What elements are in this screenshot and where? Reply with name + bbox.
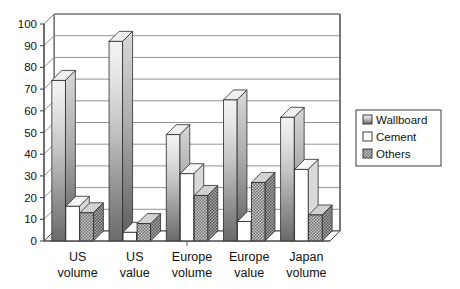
legend: WallboardCementOthers xyxy=(356,110,441,166)
legend-label: Wallboard xyxy=(376,114,427,126)
bar-side-face xyxy=(265,172,275,241)
y-tick-label: 90 xyxy=(24,40,37,52)
bar-front-face xyxy=(66,206,80,241)
y-tick-label: 80 xyxy=(24,61,37,73)
x-axis-category-label: Europe xyxy=(172,250,212,264)
legend-label: Others xyxy=(376,148,411,160)
x-axis-category-label: value xyxy=(120,266,150,280)
bar xyxy=(109,31,133,241)
y-tick-label: 70 xyxy=(24,83,37,95)
y-tick-label: 40 xyxy=(24,148,37,160)
y-tick-label: 0 xyxy=(31,235,37,247)
bar-front-face xyxy=(123,232,137,241)
bar-front-face xyxy=(223,100,237,241)
bar-front-face xyxy=(109,41,123,241)
chart-container: 0102030405060708090100 USvolumeUSvalueEu… xyxy=(0,0,460,289)
x-axis-category-label: volume xyxy=(57,266,97,280)
bar-front-face xyxy=(80,213,94,241)
bar-front-face xyxy=(166,135,180,241)
y-tick-label: 60 xyxy=(24,105,37,117)
x-axis-category-label: Europe xyxy=(229,250,269,264)
bar-front-face xyxy=(237,221,251,241)
bar-front-face xyxy=(52,80,66,241)
bar-chart: 0102030405060708090100 USvolumeUSvalueEu… xyxy=(0,0,460,289)
bar-front-face xyxy=(251,182,265,241)
y-tick-label: 50 xyxy=(24,127,37,139)
bar-front-face xyxy=(180,174,194,241)
y-tick-label: 10 xyxy=(24,213,37,225)
bar-front-face xyxy=(309,215,323,241)
legend-swatch xyxy=(363,149,372,158)
legend-swatch xyxy=(363,115,372,124)
y-tick-label: 30 xyxy=(24,170,37,182)
x-axis-category-label: US xyxy=(126,250,143,264)
x-axis-category-label: volume xyxy=(172,266,212,280)
bar-front-face xyxy=(137,224,151,241)
bar xyxy=(251,172,275,241)
legend-label: Cement xyxy=(376,131,417,143)
x-axis-category-label: value xyxy=(234,266,264,280)
bar-front-face xyxy=(281,117,295,241)
y-tick-label: 100 xyxy=(18,18,37,30)
legend-item[interactable]: Cement xyxy=(363,131,417,143)
x-axis-category-label: US xyxy=(69,250,86,264)
legend-swatch xyxy=(363,132,372,141)
bar-front-face xyxy=(295,169,309,241)
bar-side-face xyxy=(123,31,133,241)
x-axis-category-label: volume xyxy=(286,266,326,280)
bar xyxy=(194,185,218,241)
y-tick-label: 20 xyxy=(24,192,37,204)
legend-item[interactable]: Others xyxy=(363,148,411,160)
bar-front-face xyxy=(194,195,208,241)
x-axis-category-label: Japan xyxy=(289,250,323,264)
